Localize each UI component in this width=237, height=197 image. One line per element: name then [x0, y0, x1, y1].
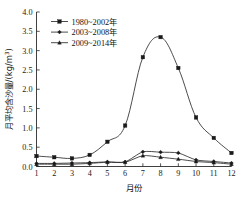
data-point-marker	[106, 140, 110, 144]
series-2	[35, 150, 234, 165]
series-3	[35, 154, 234, 166]
series-1	[35, 35, 234, 160]
y-tick-label: 1.5	[22, 105, 32, 114]
data-point-marker	[177, 66, 181, 70]
legend-label: 1980~2002年	[72, 17, 118, 27]
y-tick-label: 2.0	[22, 85, 32, 94]
y-tick-label: 0.0	[22, 163, 32, 172]
y-tick-label: 3.0	[22, 47, 32, 56]
x-axis-title: 月份	[126, 183, 143, 193]
x-axis-ticks	[37, 163, 232, 166]
data-point-marker	[141, 150, 145, 154]
y-tick-label: 0.5	[22, 143, 32, 152]
x-tick-label: 7	[141, 169, 145, 178]
x-tick-label: 8	[159, 169, 163, 178]
x-tick-label: 5	[105, 169, 109, 178]
legend-item-2: 2003~2008年	[51, 27, 117, 37]
sediment-concentration-chart: 1980~2002年2003~2008年2009~2014年 0.00.51.0…	[0, 0, 237, 197]
legend-label: 2009~2014年	[72, 38, 118, 48]
data-point-marker	[194, 116, 198, 120]
x-tick-label: 3	[70, 169, 74, 178]
data-point-marker	[58, 20, 62, 24]
data-point-marker	[35, 154, 39, 158]
legend-label: 2003~2008年	[72, 27, 118, 37]
x-tick-label: 6	[123, 169, 127, 178]
y-tick-label: 3.5	[22, 27, 32, 36]
series-line	[37, 37, 232, 159]
data-point-marker	[52, 155, 56, 159]
y-tick-label: 1.0	[22, 124, 32, 133]
y-tick-label: 4.0	[22, 8, 32, 17]
y-tick-label-group: 0.00.51.01.52.02.53.03.54.0	[22, 8, 32, 172]
data-point-marker	[230, 151, 234, 155]
x-tick-label-group: 123456789101112	[34, 169, 235, 178]
x-tick-label: 10	[192, 169, 200, 178]
x-tick-label: 9	[176, 169, 180, 178]
x-tick-label: 1	[34, 169, 38, 178]
data-point-marker	[88, 153, 92, 157]
y-axis-title: 月平均含沙量/(kg/m3)	[4, 48, 14, 130]
data-point-marker	[212, 136, 216, 140]
data-point-marker	[159, 35, 163, 39]
x-tick-label: 4	[88, 169, 92, 178]
x-tick-label: 12	[227, 169, 235, 178]
data-point-marker	[123, 124, 127, 128]
data-point-marker	[141, 55, 145, 59]
data-point-marker	[176, 151, 180, 155]
chart-legend: 1980~2002年2003~2008年2009~2014年	[51, 17, 117, 48]
y-axis-ticks	[37, 12, 40, 167]
legend-item-1: 1980~2002年	[51, 17, 117, 27]
axis-frame	[37, 12, 232, 167]
chart-canvas: 1980~2002年2003~2008年2009~2014年 0.00.51.0…	[0, 0, 237, 197]
legend-item-3: 2009~2014年	[51, 38, 117, 48]
data-point-marker	[159, 150, 163, 154]
data-series-group	[35, 35, 234, 165]
x-tick-label: 11	[210, 169, 218, 178]
data-point-marker	[58, 30, 62, 34]
x-tick-label: 2	[52, 169, 56, 178]
y-tick-label: 2.5	[22, 66, 32, 75]
data-point-marker	[70, 157, 74, 161]
